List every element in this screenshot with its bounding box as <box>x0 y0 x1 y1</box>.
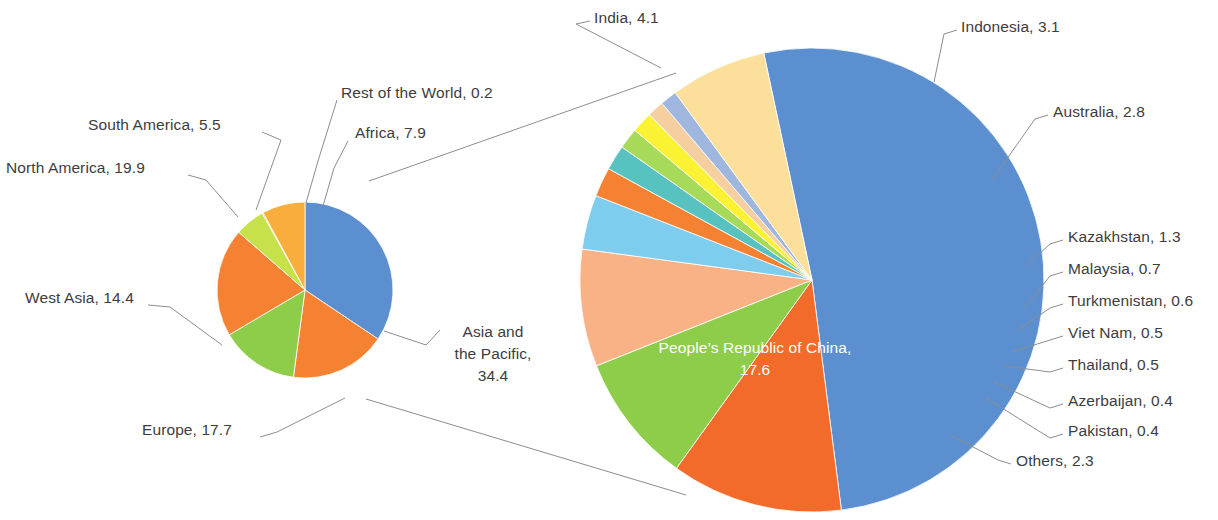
label-asia-and-the-pacific-line1: Asia and <box>462 323 523 340</box>
label-viet-nam: Viet Nam, 0.5 <box>1068 322 1163 344</box>
label-north-america: North America, 19.9 <box>6 157 145 179</box>
label-australia: Australia, 2.8 <box>1053 101 1145 123</box>
label-kazakhstan: Kazakhstan, 1.3 <box>1068 226 1181 248</box>
label-prc-line2: 17.6 <box>740 361 771 378</box>
pie-of-pie-chart: Rest of the World, 0.2 Africa, 7.9 South… <box>0 0 1218 520</box>
label-indonesia: Indonesia, 3.1 <box>961 16 1060 38</box>
leader-indonesia <box>934 30 957 82</box>
label-india: India, 4.1 <box>594 7 659 29</box>
label-europe: Europe, 17.7 <box>142 419 232 441</box>
leader-west-asia <box>148 305 222 345</box>
label-west-asia: West Asia, 14.4 <box>25 287 134 309</box>
label-prc-line1: People’s Republic of China, <box>659 339 852 356</box>
label-others: Others, 2.3 <box>1016 450 1094 472</box>
label-thailand: Thailand, 0.5 <box>1068 354 1159 376</box>
label-asia-and-the-pacific-line2: the Pacific, <box>454 345 531 362</box>
label-peoples-republic-of-china: People’s Republic of China, 17.6 <box>605 337 905 381</box>
label-south-america: South America, 5.5 <box>88 114 221 136</box>
overview-pie <box>217 202 393 378</box>
label-malaysia: Malaysia, 0.7 <box>1068 258 1161 280</box>
leader-rest-of-the-world <box>306 100 337 203</box>
leader-africa <box>323 141 348 206</box>
chart-canvas <box>0 0 1218 520</box>
label-pakistan: Pakistan, 0.4 <box>1068 420 1159 442</box>
label-africa: Africa, 7.9 <box>355 122 426 144</box>
leader-north-america <box>188 175 238 217</box>
leader-europe <box>260 398 345 437</box>
label-rest-of-the-world: Rest of the World, 0.2 <box>341 82 493 104</box>
leader-asia-pacific <box>384 330 440 345</box>
detail-pie <box>580 48 1044 512</box>
label-asia-and-the-pacific-line3: 34.4 <box>478 367 509 384</box>
label-asia-and-the-pacific: Asia and the Pacific, 34.4 <box>441 321 545 387</box>
label-azerbaijan: Azerbaijan, 0.4 <box>1068 390 1173 412</box>
leader-south-america <box>256 132 281 210</box>
label-turkmenistan: Turkmenistan, 0.6 <box>1068 290 1193 312</box>
